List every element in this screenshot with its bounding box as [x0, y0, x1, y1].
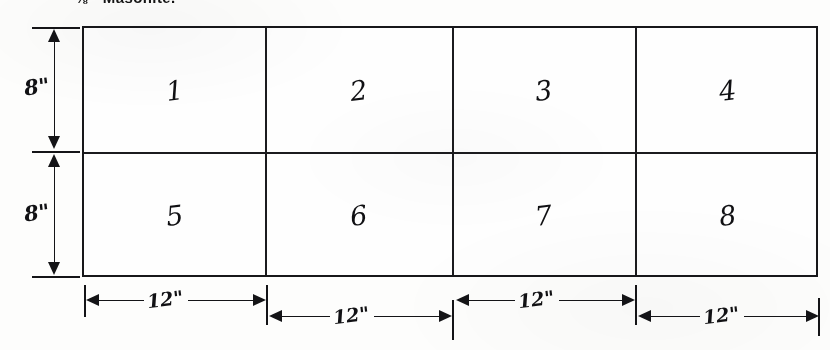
panel-label: 5	[164, 199, 185, 232]
material-thickness: ⅛"	[76, 0, 94, 6]
arrowhead-up	[48, 154, 60, 167]
panel-cell: 1	[84, 28, 265, 152]
arrowhead-down	[48, 136, 60, 149]
dimension-label-height-1: 8"	[23, 73, 51, 101]
panel-label: 8	[717, 199, 738, 232]
arrowhead-right	[253, 294, 266, 306]
extension-tick-right	[266, 285, 268, 325]
arrowhead-left	[638, 310, 651, 322]
arrowhead-right	[622, 294, 635, 306]
diagram-heading: ⅛"Masonite.	[76, 0, 176, 6]
extension-tick-right	[452, 300, 454, 340]
panel-label: 1	[164, 74, 185, 107]
panel-grid: 1 2 3 4 5 6 7 8	[82, 26, 818, 277]
dimension-label-width-2: 12"	[332, 302, 371, 328]
panel-label: 2	[348, 74, 369, 107]
dimension-label-width-4: 12"	[702, 302, 741, 328]
panel-cell: 6	[265, 152, 452, 279]
panel-cell: 4	[635, 28, 820, 152]
panel-label: 4	[717, 74, 738, 107]
dimension-label-width-1: 12"	[146, 286, 185, 312]
dimension-line-vertical-1	[54, 31, 55, 147]
panel-cell: 3	[452, 28, 635, 152]
extension-tick-right	[635, 285, 637, 325]
panel-cell: 8	[635, 152, 820, 279]
extension-tick-bottom	[32, 276, 80, 278]
extension-tick-middle	[32, 151, 80, 153]
dimension-label-width-3: 12"	[517, 286, 556, 312]
material-name: Masonite.	[103, 0, 176, 6]
arrowhead-left	[269, 310, 282, 322]
arrowhead-down	[48, 262, 60, 275]
panel-label: 3	[533, 74, 554, 107]
panel-cell: 5	[84, 152, 265, 279]
dimension-label-height-2: 8"	[23, 199, 51, 227]
arrowhead-left	[86, 294, 99, 306]
panel-label: 6	[348, 199, 369, 232]
arrowhead-right	[806, 310, 819, 322]
panel-cell: 7	[452, 152, 635, 279]
scanned-cut-diagram: ⅛"Masonite. 1 2 3 4 5 6 7 8	[0, 0, 830, 350]
panel-label: 7	[533, 199, 554, 232]
arrowhead-up	[48, 29, 60, 42]
arrowhead-left	[456, 294, 469, 306]
panel-cell: 2	[265, 28, 452, 152]
dimension-line-vertical-2	[54, 156, 55, 272]
arrowhead-right	[439, 310, 452, 322]
